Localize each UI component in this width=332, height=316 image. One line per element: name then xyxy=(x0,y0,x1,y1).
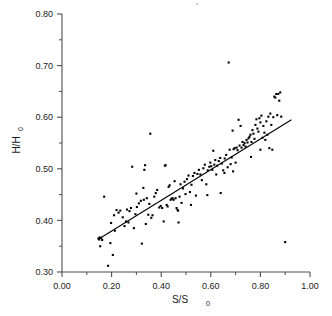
data-point xyxy=(153,196,155,198)
x-axis-tick-labels: 0.000.200.400.600.801.00 xyxy=(53,281,319,291)
data-point xyxy=(151,214,153,216)
data-point xyxy=(206,194,208,196)
data-point xyxy=(265,120,267,122)
scatter-chart-figure: 0.300.400.500.600.700.80 0.000.200.400.6… xyxy=(0,0,332,316)
y-tick-label: 0.40 xyxy=(35,216,53,226)
data-point xyxy=(208,166,210,168)
data-point xyxy=(150,217,152,219)
data-point xyxy=(212,150,214,152)
data-point xyxy=(259,121,261,123)
data-point xyxy=(275,93,277,95)
data-point xyxy=(192,175,194,177)
data-point xyxy=(178,221,180,223)
data-point xyxy=(253,138,255,140)
x-tick-label: 1.00 xyxy=(301,281,319,291)
data-point xyxy=(270,124,272,126)
data-point xyxy=(99,245,101,247)
x-axis-title-subscript: 0 xyxy=(206,300,210,307)
data-point xyxy=(252,133,254,135)
y-axis-title-group: H/H 0 xyxy=(11,127,24,154)
data-point xyxy=(122,216,124,218)
data-point xyxy=(149,133,151,135)
data-point xyxy=(134,213,136,215)
data-point xyxy=(174,180,176,182)
data-point xyxy=(201,179,203,181)
data-point xyxy=(235,162,237,164)
data-point xyxy=(232,130,234,132)
data-point xyxy=(229,149,231,151)
data-point xyxy=(230,163,232,165)
data-point xyxy=(243,142,245,144)
data-point xyxy=(246,141,248,143)
data-point xyxy=(184,193,186,195)
data-point xyxy=(245,139,247,141)
data-point xyxy=(227,166,229,168)
data-point xyxy=(272,116,274,118)
fit-line-group xyxy=(98,120,291,240)
data-point xyxy=(169,184,171,186)
y-axis-ticks xyxy=(57,14,62,272)
axes-group xyxy=(62,14,310,272)
x-tick-label: 0.20 xyxy=(103,281,121,291)
data-point xyxy=(136,206,138,208)
data-point xyxy=(107,265,109,267)
data-point xyxy=(239,145,241,147)
data-point xyxy=(210,165,212,167)
data-point xyxy=(179,183,181,185)
data-point xyxy=(131,166,133,168)
artifact-speck xyxy=(196,3,198,5)
data-point xyxy=(196,173,198,175)
data-point xyxy=(198,169,200,171)
data-point xyxy=(248,136,250,138)
data-point xyxy=(264,139,266,141)
data-point xyxy=(110,222,112,224)
data-point xyxy=(242,144,244,146)
y-axis-tick-labels: 0.300.400.500.600.700.80 xyxy=(35,9,53,277)
data-point xyxy=(143,169,145,171)
data-point xyxy=(223,172,225,174)
data-point xyxy=(155,192,157,194)
data-point xyxy=(117,212,119,214)
data-point xyxy=(260,115,262,117)
data-point xyxy=(161,207,163,209)
data-points-layer xyxy=(97,61,286,266)
data-point xyxy=(103,196,105,198)
x-axis-title: S/S xyxy=(172,294,188,305)
y-tick-label: 0.60 xyxy=(35,112,53,122)
y-axis-title: H/H xyxy=(11,136,22,153)
data-point xyxy=(241,147,243,149)
data-point xyxy=(256,128,258,130)
data-point xyxy=(255,118,257,120)
data-point xyxy=(262,125,264,127)
data-point xyxy=(123,225,125,227)
data-point xyxy=(224,157,226,159)
data-point xyxy=(193,172,195,174)
data-point xyxy=(142,187,144,189)
data-point xyxy=(163,220,165,222)
data-point xyxy=(263,132,265,134)
data-point xyxy=(143,199,145,201)
data-point xyxy=(267,116,269,118)
data-point xyxy=(144,164,146,166)
data-point xyxy=(251,129,253,131)
data-point xyxy=(268,147,270,149)
data-point xyxy=(240,125,242,127)
data-point xyxy=(165,164,167,166)
data-point xyxy=(148,203,150,205)
data-point xyxy=(146,197,148,199)
data-point xyxy=(138,202,140,204)
data-point xyxy=(180,202,182,204)
data-point xyxy=(112,254,114,256)
data-point xyxy=(189,191,191,193)
data-point xyxy=(140,200,142,202)
data-point xyxy=(101,239,103,241)
x-axis-ticks xyxy=(62,272,310,277)
data-point xyxy=(257,131,259,133)
data-point xyxy=(113,214,115,216)
data-point xyxy=(160,205,162,207)
x-tick-label: 0.80 xyxy=(252,281,270,291)
data-point xyxy=(220,192,222,194)
data-point xyxy=(119,210,121,212)
data-point xyxy=(237,149,239,151)
data-point xyxy=(280,116,282,118)
